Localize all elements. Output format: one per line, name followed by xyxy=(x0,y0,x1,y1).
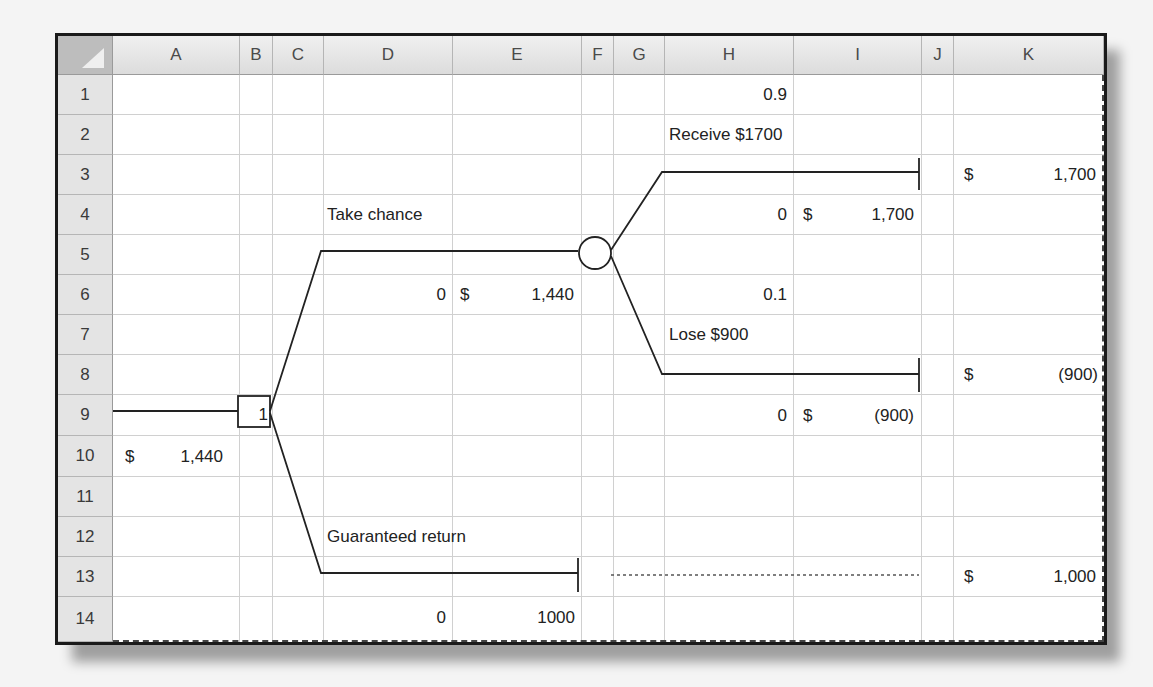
cell-k3-currency[interactable]: $ xyxy=(964,165,973,185)
cell-e14[interactable]: 1000 xyxy=(453,608,575,628)
cell-a10-currency[interactable]: $ xyxy=(125,447,134,467)
worksheet-grid: A B C D E F G H I J K 1 2 3 4 5 6 7 8 9 … xyxy=(58,36,1104,642)
cell-i9[interactable]: (900) xyxy=(828,406,914,426)
cell-b9-decision-node[interactable]: 1 xyxy=(244,405,268,425)
cell-d14[interactable]: 0 xyxy=(324,608,446,628)
cell-k3[interactable]: 1,700 xyxy=(1018,165,1096,185)
decision-tree-diagram xyxy=(58,36,1104,642)
cell-h7[interactable]: Lose $900 xyxy=(669,325,748,345)
cell-i4-currency[interactable]: $ xyxy=(803,205,812,225)
cell-k13[interactable]: 1,000 xyxy=(1018,567,1096,587)
cell-h9[interactable]: 0 xyxy=(665,406,787,426)
cell-e6-currency[interactable]: $ xyxy=(460,285,469,305)
cell-d4[interactable]: Take chance xyxy=(327,205,422,225)
cell-h6[interactable]: 0.1 xyxy=(665,285,787,305)
cell-i9-currency[interactable]: $ xyxy=(803,406,812,426)
cell-k8-currency[interactable]: $ xyxy=(964,365,973,385)
cell-k13-currency[interactable]: $ xyxy=(964,567,973,587)
cell-k8[interactable]: (900) xyxy=(1018,365,1098,385)
spreadsheet-frame: A B C D E F G H I J K 1 2 3 4 5 6 7 8 9 … xyxy=(55,33,1107,645)
cell-e6[interactable]: 1,440 xyxy=(488,285,574,305)
cell-d6[interactable]: 0 xyxy=(324,285,446,305)
cell-i4[interactable]: 1,700 xyxy=(828,205,914,225)
cell-h1[interactable]: 0.9 xyxy=(665,85,787,105)
cell-d12[interactable]: Guaranteed return xyxy=(327,527,466,547)
cell-h2[interactable]: Receive $1700 xyxy=(669,125,782,145)
cell-h4[interactable]: 0 xyxy=(665,205,787,225)
cell-a10[interactable]: 1,440 xyxy=(143,447,223,467)
